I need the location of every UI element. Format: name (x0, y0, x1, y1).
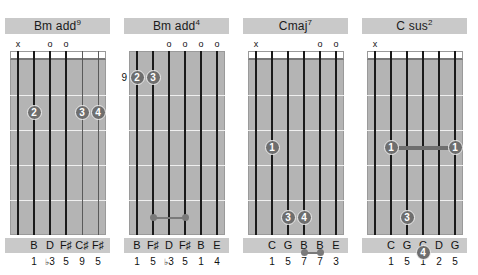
string-2 (33, 51, 35, 235)
fretboard-nut (367, 51, 463, 60)
string-6 (98, 51, 99, 235)
optional-note-dot (317, 249, 324, 256)
chord-chart-sheet: Bm add9xoo234BDF♯C♯F♯1♭3595Bm add4oooo92… (0, 0, 478, 275)
string-4 (422, 51, 424, 235)
interval-number: 5 (88, 256, 108, 268)
finger-dot: 4 (297, 210, 312, 225)
optional-note-dot (150, 214, 157, 221)
muted-string-marker: x (370, 38, 380, 50)
string-markers-row: xoo (238, 38, 348, 51)
fret-line (248, 165, 344, 166)
fret-line (10, 165, 106, 166)
string-markers-row: x (357, 38, 467, 51)
muted-string-marker: x (13, 38, 23, 50)
finger-dot: 3 (281, 210, 296, 225)
open-string-marker: o (45, 38, 55, 50)
note-name: G (445, 238, 465, 253)
interval-number: 5 (445, 256, 465, 268)
fret-line (248, 200, 344, 201)
open-string-marker: o (212, 38, 222, 50)
chord-title-root: C sus (396, 19, 428, 33)
finger-dot: 3 (400, 210, 415, 225)
note-name: F♯ (88, 238, 108, 253)
string-markers-row: xoo (0, 38, 110, 51)
open-string-marker: o (61, 38, 71, 50)
finger-dot: 4 (416, 245, 431, 260)
fret-line (367, 165, 463, 166)
muted-string-marker: x (251, 38, 261, 50)
chord-diagram-3: Cmaj7xoo134CGBBE15773 (238, 0, 348, 275)
string-3 (49, 51, 51, 235)
optional-note-dot (301, 249, 308, 256)
string-5 (319, 51, 321, 235)
string-5 (438, 51, 440, 235)
fret-line (248, 130, 344, 131)
string-5 (200, 51, 202, 235)
string-6 (216, 51, 218, 235)
chord-title-superscript: 4 (195, 18, 200, 27)
chord-title: Bm add4 (124, 18, 229, 34)
string-markers-row: oooo (119, 38, 229, 51)
interval-number: 4 (207, 256, 227, 268)
chord-title-root: Cmaj (279, 19, 308, 33)
open-string-marker: o (196, 38, 206, 50)
string-4 (65, 51, 67, 235)
chord-title: Bm add9 (5, 18, 110, 34)
open-string-marker: o (164, 38, 174, 50)
chord-title-root: Bm add (153, 19, 196, 33)
chord-diagram-4: C sus2x1134CGCDG15125 (357, 0, 467, 275)
finger-dot: 1 (384, 140, 399, 155)
fret-line (10, 130, 106, 131)
chord-title-root: Bm add (34, 19, 77, 33)
string-1 (17, 51, 19, 235)
finger-dot: 2 (130, 70, 145, 85)
fret-line (248, 95, 344, 96)
string-6 (335, 51, 337, 235)
finger-dot: 1 (265, 140, 280, 155)
optional-note-connector (153, 217, 185, 219)
fret-line (367, 200, 463, 201)
fret-line (129, 165, 225, 166)
chord-title: Cmaj7 (243, 18, 348, 34)
finger-dot: 3 (146, 70, 161, 85)
flat-symbol: ♭ (164, 257, 168, 267)
interval-number: 3 (326, 256, 346, 268)
fretboard-nut (248, 51, 344, 60)
string-3 (168, 51, 170, 235)
fretboard (10, 60, 106, 235)
fret-line (129, 200, 225, 201)
string-4 (184, 51, 186, 235)
open-string-marker: o (331, 38, 341, 50)
fret-line (10, 200, 106, 201)
open-string-marker: o (315, 38, 325, 50)
fret-line (367, 130, 463, 131)
chord-title-superscript: 7 (308, 18, 313, 27)
optional-note-dot (182, 214, 189, 221)
fret-line (10, 95, 106, 96)
string-1 (374, 51, 376, 235)
chord-title: C sus2 (362, 18, 467, 34)
string-3 (287, 51, 289, 235)
fretboard (248, 60, 344, 235)
note-name: E (207, 238, 227, 253)
fretboard-nut (10, 51, 106, 60)
string-4 (303, 51, 305, 235)
barre-line (391, 146, 455, 150)
open-string-marker: o (180, 38, 190, 50)
chord-title-superscript: 2 (428, 18, 433, 27)
chord-diagram-2: Bm add4oooo923BF♯DF♯BE15♭3514 (119, 0, 229, 275)
base-fret-number: 9 (119, 73, 127, 83)
chord-title-superscript: 9 (76, 18, 81, 27)
string-3 (406, 51, 408, 235)
finger-dot: 1 (448, 140, 463, 155)
chord-diagram-1: Bm add9xoo234BDF♯C♯F♯1♭3595 (0, 0, 110, 275)
finger-dot: 3 (75, 105, 90, 120)
fret-line (367, 95, 463, 96)
flat-symbol: ♭ (45, 257, 49, 267)
finger-dot: 4 (91, 105, 106, 120)
fret-line (129, 95, 225, 96)
string-1 (255, 51, 257, 235)
fret-line (129, 130, 225, 131)
string-5 (82, 51, 83, 235)
finger-dot: 2 (27, 105, 42, 120)
